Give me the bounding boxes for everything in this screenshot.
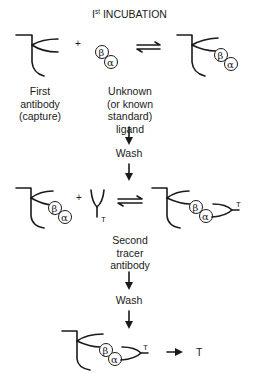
svg-text:T: T <box>236 200 241 209</box>
svg-text:β: β <box>99 47 105 58</box>
wash-label-1: Wash <box>109 147 149 160</box>
first-antibody-label: First antibody (capture) <box>14 85 66 123</box>
label-line: antibody <box>99 259 161 272</box>
svg-text:α: α <box>227 59 234 70</box>
ligand-icon: β α <box>96 46 118 69</box>
svg-text:T: T <box>143 343 148 352</box>
label-line: antibody <box>14 98 66 111</box>
wash-label-2: Wash <box>109 294 149 307</box>
svg-text:β: β <box>52 203 58 214</box>
immunoassay-diagram: + β α β α β α + T <box>0 0 258 373</box>
antibody-ligand-complex-icon: β α <box>177 35 238 76</box>
svg-text:β: β <box>103 345 109 356</box>
label-line: (or known <box>99 98 161 111</box>
svg-text:T: T <box>101 215 106 224</box>
label-line: First <box>14 85 66 98</box>
svg-text:α: α <box>107 57 114 68</box>
label-line: standard) <box>99 110 161 123</box>
first-antibody-icon <box>16 35 58 76</box>
label-line: Unknown <box>99 85 161 98</box>
svg-text:α: α <box>111 354 118 365</box>
svg-text:α: α <box>61 212 68 223</box>
equilibrium-arrow-icon-1 <box>137 42 160 52</box>
ligand-label: Unknown (or known standard) ligand <box>99 85 161 135</box>
svg-text:β: β <box>193 202 199 213</box>
label-line: (capture) <box>14 110 66 123</box>
detected-tracer-label: T <box>196 346 203 358</box>
bound-complex-icon: β α <box>16 188 72 228</box>
sandwich-complex-icon: β α T <box>152 188 241 228</box>
tracer-antibody-icon: T <box>91 190 106 224</box>
plus-sign-1: + <box>75 38 81 49</box>
label-line: tracer <box>99 247 161 260</box>
svg-text:β: β <box>218 50 224 61</box>
final-complex-icon: β α T <box>62 331 148 370</box>
second-tracer-label: Second tracer antibody <box>99 234 161 272</box>
equilibrium-arrow-icon-2 <box>118 196 142 206</box>
plus-sign-2: + <box>76 192 82 203</box>
label-line: Second <box>99 234 161 247</box>
svg-text:α: α <box>202 211 209 222</box>
label-line: ligand <box>99 123 161 136</box>
